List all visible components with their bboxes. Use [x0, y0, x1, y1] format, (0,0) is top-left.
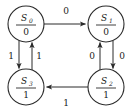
state-diagram-container: 0 0 0 1 1 1 S [0, 0, 129, 111]
transition-label-s0-s1: 0 [63, 6, 69, 16]
state-subscript-s2: 2 [108, 80, 113, 87]
state-label-s3: S [21, 76, 27, 86]
state-diagram-canvas: 0 0 0 1 1 1 S [0, 0, 129, 111]
state-output-s3: 1 [23, 90, 29, 100]
state-subscript-s0: 0 [29, 17, 33, 24]
transition-label-s3-s0: 1 [36, 51, 42, 61]
transition-label-s2-s1: 0 [89, 51, 95, 61]
state-output-s2: 1 [103, 90, 109, 100]
transition-s0-to-s3: 1 [8, 41, 19, 69]
state-output-s1: 0 [103, 27, 109, 37]
state-node-s2[interactable]: S 2 1 [88, 69, 124, 105]
state-label-s2: S [101, 76, 107, 86]
transition-s2-to-s1: 0 [89, 43, 100, 71]
transition-label-s1-s2: 0 [119, 51, 125, 61]
state-node-s1[interactable]: S 1 0 [88, 6, 124, 42]
transition-s3-to-s0: 1 [32, 43, 42, 71]
state-subscript-s3: 3 [29, 80, 33, 87]
transition-s1-to-s2: 0 [113, 41, 125, 69]
transition-s2-to-s3: 1 [47, 87, 89, 108]
state-node-s0[interactable]: S 0 0 [8, 6, 44, 42]
transition-label-s2-s3: 1 [63, 98, 69, 108]
transition-s0-to-s1: 0 [44, 6, 86, 24]
transition-label-s0-s3: 1 [8, 51, 14, 61]
state-node-s3[interactable]: S 3 1 [8, 69, 44, 105]
state-subscript-s1: 1 [109, 17, 113, 24]
state-label-s0: S [21, 13, 27, 23]
state-output-s0: 0 [23, 27, 29, 37]
state-label-s1: S [101, 13, 107, 23]
